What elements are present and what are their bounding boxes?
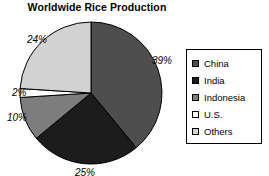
legend-label-others: Others [204, 126, 233, 137]
legend-item-others[interactable]: Others [192, 123, 261, 140]
legend-swatch-us [192, 111, 199, 118]
legend-swatch-india [192, 77, 199, 84]
legend-label-us: U.S. [204, 109, 222, 120]
legend-item-china[interactable]: China [192, 55, 261, 72]
chart-legend: China India Indonesia U.S. Others [186, 49, 262, 144]
pie-label-indonesia: 10% [7, 112, 27, 123]
pie-label-others: 24% [27, 34, 47, 45]
pie-chart-figure: Worldwide Rice Production 39% 25% 10% 2%… [0, 0, 269, 176]
pie-label-us: 2% [12, 87, 26, 98]
legend-item-india[interactable]: India [192, 72, 261, 89]
pie-plot-area: 39% 25% 10% 2% 24% [0, 12, 182, 176]
legend-swatch-others [192, 128, 199, 135]
legend-label-india: India [204, 75, 225, 86]
legend-item-us[interactable]: U.S. [192, 106, 261, 123]
pie-slice-others[interactable] [20, 22, 91, 93]
legend-label-indonesia: Indonesia [204, 92, 245, 103]
pie-label-china: 39% [152, 55, 172, 66]
legend-item-indonesia[interactable]: Indonesia [192, 89, 261, 106]
legend-swatch-indonesia [192, 94, 199, 101]
legend-label-china: China [204, 58, 229, 69]
pie-label-india: 25% [75, 167, 95, 176]
legend-swatch-china [192, 60, 199, 67]
